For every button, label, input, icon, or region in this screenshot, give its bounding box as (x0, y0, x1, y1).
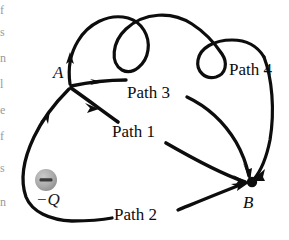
edge-fragment-7: n (0, 195, 6, 209)
path-1-route (71, 88, 250, 184)
path-1-segment-to-b (166, 143, 245, 182)
path-1-segment-from-a (71, 88, 118, 122)
edge-fragment-0: f (0, 3, 4, 17)
node-b-label: B (243, 193, 254, 212)
path-3-label: Path 3 (127, 83, 170, 102)
path-2-segment-to-b (178, 184, 243, 210)
page-edge-text-fragments: f s n l e f s n (0, 3, 6, 209)
edge-fragment-4: e (0, 103, 5, 117)
node-a-label: A (52, 63, 64, 82)
edge-fragment-6: s (0, 161, 5, 175)
charge-label: −Q (36, 190, 60, 209)
path-1-label: Path 1 (112, 122, 155, 141)
path-2-label: Path 2 (114, 205, 157, 224)
edge-fragment-2: n (0, 51, 6, 65)
path-diagram-svg: A B −Q Path 3 Path 1 Path 2 Path 4 (0, 0, 289, 240)
path-4-label: Path 4 (229, 60, 272, 79)
node-a: A (52, 63, 64, 82)
edge-fragment-5: f (0, 129, 4, 143)
figure-canvas: A B −Q Path 3 Path 1 Path 2 Path 4 (0, 0, 289, 240)
edge-fragment-3: l (0, 77, 4, 91)
node-b-dot (247, 177, 257, 187)
minus-sign-icon (40, 178, 53, 181)
negative-charge: −Q (35, 169, 60, 209)
path-3-segment-to-b (187, 97, 249, 176)
edge-fragment-1: s (0, 25, 5, 39)
